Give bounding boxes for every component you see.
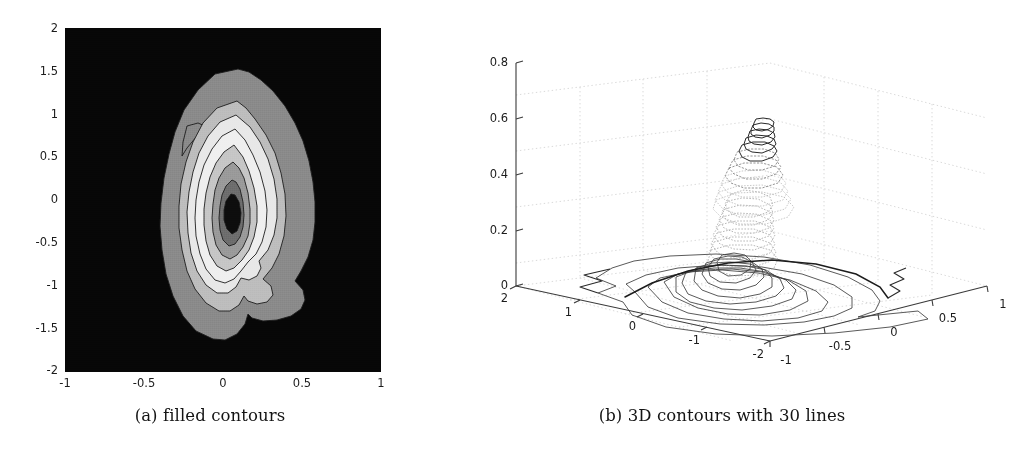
y-tick-neg1: -1 [47, 280, 58, 292]
z-tick-0p6: 0.6 [490, 113, 508, 125]
x3d-tick-neg1: -1 [780, 355, 791, 367]
z-tick-0p8: 0.8 [490, 57, 508, 69]
subfigure-a-caption: (a) filled contours [0, 406, 420, 425]
x3d-tick-neg0p5: -0.5 [829, 341, 851, 353]
y-tick-0: 0 [51, 194, 58, 206]
subfigure-3d-contours: 0.8 0.6 0.4 0.2 0 2 1 0 -1 -2 -1 -0.5 0 … [420, 0, 1024, 457]
x3d-tick-0: 0 [890, 327, 897, 339]
filled-contour-plot-area [65, 28, 381, 372]
y3d-tick-1: 1 [565, 307, 572, 319]
y-tick-neg1p5: -1.5 [36, 323, 58, 335]
subfigure-filled-contours: 2 1.5 1 0.5 0 -0.5 -1 -1.5 -2 -1 -0.5 0 … [0, 0, 420, 457]
contour-lines-base [596, 253, 928, 336]
x-tick-1: 1 [377, 378, 384, 390]
subfigure-b-caption: (b) 3D contours with 30 lines [420, 406, 1024, 425]
x3d-tick-0p5: 0.5 [939, 313, 957, 325]
x-tick-neg1: -1 [59, 378, 70, 390]
y-axis-ticks [510, 286, 770, 344]
contour3d-svg [420, 0, 1024, 400]
y-tick-1p5: 1.5 [40, 66, 58, 78]
y-tick-0p5: 0.5 [40, 151, 58, 163]
y-tick-neg2: -2 [47, 365, 58, 377]
x-tick-neg0p5: -0.5 [133, 378, 155, 390]
y3d-tick-neg1: -1 [689, 335, 700, 347]
y3d-tick-2: 2 [501, 293, 508, 305]
contour3d-plot-area [420, 0, 1024, 400]
y-tick-2: 2 [51, 23, 58, 35]
x3d-tick-1: 1 [999, 299, 1006, 311]
y3d-tick-0: 0 [629, 321, 636, 333]
z-tick-0: 0 [501, 280, 508, 292]
z-tick-0p2: 0.2 [490, 225, 508, 237]
plot-axes [516, 63, 987, 341]
x-tick-0p5: 0.5 [293, 378, 311, 390]
y-tick-1: 1 [51, 109, 58, 121]
figure-row: 2 1.5 1 0.5 0 -0.5 -1 -1.5 -2 -1 -0.5 0 … [0, 0, 1024, 457]
x-tick-0: 0 [219, 378, 226, 390]
y3d-tick-neg2: -2 [753, 349, 764, 361]
z-tick-0p4: 0.4 [490, 169, 508, 181]
contour-ridge-line [625, 260, 888, 298]
y-tick-neg0p5: -0.5 [36, 237, 58, 249]
contour-lines-peak [713, 118, 794, 224]
plot-grid [516, 63, 987, 341]
filled-contour-svg [65, 28, 381, 372]
